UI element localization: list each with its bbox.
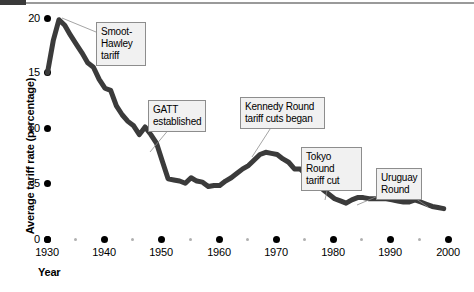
- callout-kennedy-round: Kennedy Round tariff cuts began: [240, 97, 325, 129]
- callout-uruguay-round: Uruguay Round: [376, 168, 422, 200]
- chart-figure: 20 15 10 5 0 1930 1940 1950 1960 1970 19…: [0, 0, 474, 292]
- callout-smoot-hawley: Smoot- Hawley tariff: [96, 22, 146, 66]
- callout-tokyo-round: Tokyo Round tariff cut: [301, 147, 362, 191]
- callout-gatt: GATT established: [148, 100, 206, 132]
- plot-area: [0, 0, 474, 292]
